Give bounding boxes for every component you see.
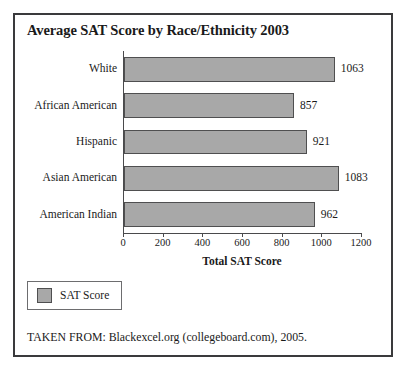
category-axis-labels: WhiteAfrican AmericanHispanicAsian Ameri… bbox=[27, 51, 121, 233]
category-label: African American bbox=[34, 100, 117, 112]
category-label: American Indian bbox=[39, 209, 117, 221]
x-tick-label: 0 bbox=[120, 238, 125, 249]
x-tick-label: 400 bbox=[194, 238, 210, 249]
x-tick-label: 1200 bbox=[351, 238, 372, 249]
chart-plot-area: WhiteAfrican AmericanHispanicAsian Ameri… bbox=[27, 51, 383, 247]
bar-row: 962 bbox=[124, 202, 361, 227]
bar-american-indian bbox=[124, 202, 315, 227]
chart-title: Average SAT Score by Race/Ethnicity 2003 bbox=[27, 22, 289, 39]
bars-container: 10638579211083962 bbox=[123, 51, 361, 233]
legend-label-sat-score: SAT Score bbox=[60, 290, 109, 302]
category-label: Asian American bbox=[43, 172, 117, 184]
bar-value-label: 962 bbox=[321, 209, 338, 221]
category-label: Hispanic bbox=[76, 136, 117, 148]
bar-hispanic bbox=[124, 130, 307, 155]
bar-value-label: 1083 bbox=[345, 173, 368, 185]
x-tick-label: 600 bbox=[234, 238, 250, 249]
bar-value-label: 921 bbox=[313, 136, 330, 148]
x-tick-label: 1000 bbox=[311, 238, 332, 249]
legend-swatch-sat-score bbox=[37, 288, 52, 303]
bar-value-label: 1063 bbox=[341, 63, 364, 75]
bar-row: 857 bbox=[124, 93, 361, 118]
figure-frame: Average SAT Score by Race/Ethnicity 2003… bbox=[13, 13, 393, 357]
x-axis-title: Total SAT Score bbox=[123, 255, 361, 267]
bar-row: 1083 bbox=[124, 166, 361, 191]
bar-row: 1063 bbox=[124, 57, 361, 82]
category-label: White bbox=[89, 63, 117, 75]
bar-row: 921 bbox=[124, 130, 361, 155]
bar-asian-american bbox=[124, 166, 339, 191]
chart-legend: SAT Score bbox=[27, 281, 122, 310]
bar-african-american bbox=[124, 93, 294, 118]
source-attribution: TAKEN FROM: Blackexcel.org (collegeboard… bbox=[27, 332, 307, 344]
x-tick-label: 200 bbox=[155, 238, 171, 249]
bar-white bbox=[124, 57, 335, 82]
bar-value-label: 857 bbox=[300, 100, 317, 112]
x-tick-label: 800 bbox=[274, 238, 290, 249]
